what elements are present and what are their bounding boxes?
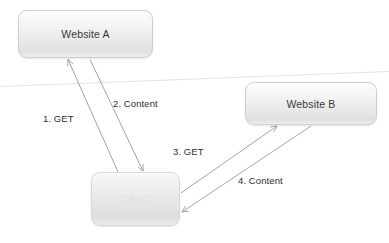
node-website-b-label: Website B bbox=[286, 98, 335, 110]
edge-2-content-line bbox=[90, 60, 143, 172]
edge-label-4-content: 4. Content bbox=[238, 175, 283, 186]
node-website-a[interactable]: Website A bbox=[18, 10, 153, 58]
diagram-canvas: Website A Website B "Client" 1. GET 2. C… bbox=[0, 0, 389, 243]
node-website-a-label: Website A bbox=[61, 28, 109, 40]
node-website-b[interactable]: Website B bbox=[245, 82, 377, 125]
node-client[interactable]: "Client" bbox=[91, 172, 180, 226]
edge-label-2-content: 2. Content bbox=[113, 98, 158, 109]
node-client-label: "Client" bbox=[119, 194, 153, 205]
edge-label-3-get: 3. GET bbox=[173, 146, 204, 157]
edge-label-1-get: 1. GET bbox=[43, 113, 74, 124]
edge-1-get-line bbox=[68, 60, 118, 173]
edge-4-content-line bbox=[182, 126, 311, 212]
